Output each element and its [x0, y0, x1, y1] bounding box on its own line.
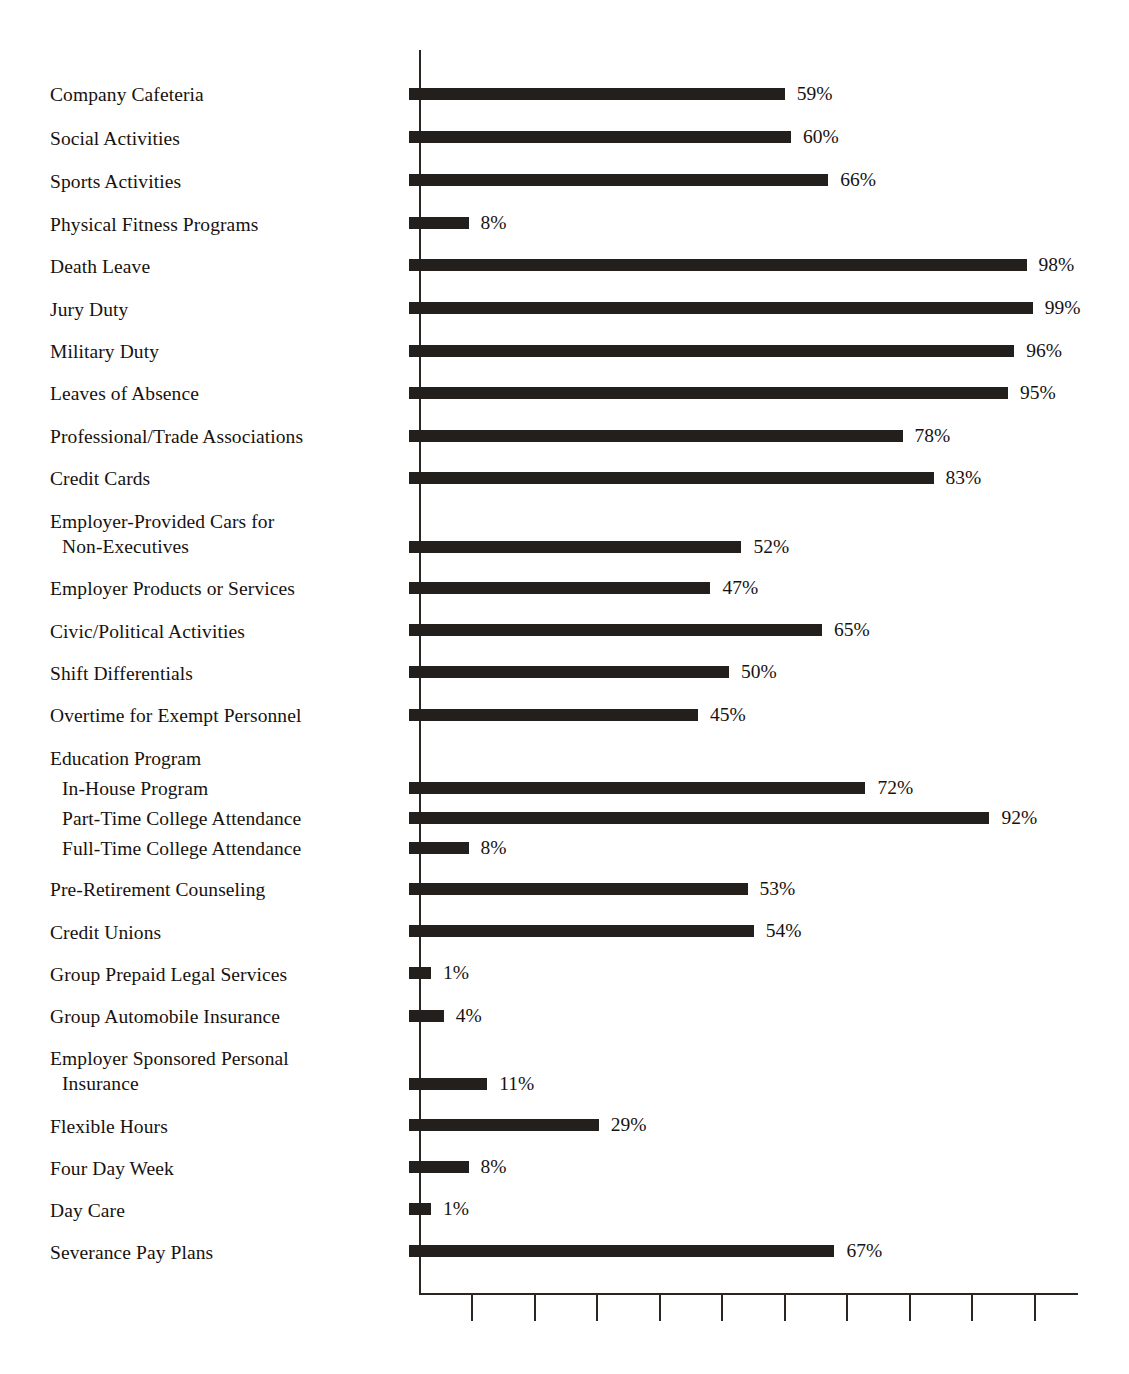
bar: [409, 345, 1014, 357]
bar-row-label: Employer Products or Services: [50, 576, 295, 601]
bar-value-label: 11%: [499, 1074, 534, 1094]
bar-row-label: In-House Program: [62, 776, 208, 801]
bar-row-label: Part-Time College Attendance: [62, 806, 301, 831]
bar: [409, 174, 828, 186]
bar-value-label: 98%: [1039, 255, 1075, 275]
bar-row-label: Flexible Hours: [50, 1114, 168, 1139]
bar-value-label: 95%: [1020, 383, 1056, 403]
bar-value-label: 96%: [1026, 341, 1062, 361]
bar-row-label: Military Duty: [50, 339, 159, 364]
x-axis-tick: [1034, 1295, 1036, 1321]
bar-row-label: Group Automobile Insurance: [50, 1004, 280, 1029]
bar: [409, 582, 710, 594]
bar: [409, 131, 791, 143]
bar-row-label: Day Care: [50, 1198, 125, 1223]
bar-value-label: 78%: [915, 426, 951, 446]
x-axis-tick: [909, 1295, 911, 1321]
x-axis-tick: [471, 1295, 473, 1321]
bar: [409, 624, 822, 636]
bar-value-label: 65%: [834, 620, 870, 640]
x-axis-tick: [721, 1295, 723, 1321]
bar: [409, 782, 865, 794]
bar-value-label: 53%: [760, 879, 796, 899]
bar-value-label: 54%: [766, 921, 802, 941]
bar-row-label: Full-Time College Attendance: [62, 836, 301, 861]
bar: [409, 883, 748, 895]
bar-row-label: Employer-Provided Cars for: [50, 509, 274, 534]
category-group-header: Education Program: [50, 746, 201, 771]
x-axis-tick: [534, 1295, 536, 1321]
x-axis-tick: [971, 1295, 973, 1321]
bar-row-label: Physical Fitness Programs: [50, 212, 258, 237]
bar-value-label: 99%: [1045, 298, 1081, 318]
bar: [409, 1203, 431, 1215]
bar-value-label: 92%: [1001, 808, 1037, 828]
bar: [409, 666, 729, 678]
bar-value-label: 45%: [710, 705, 746, 725]
bar: [409, 842, 469, 854]
bar: [409, 1245, 834, 1257]
bar-row-label: Shift Differentials: [50, 661, 193, 686]
bar: [409, 1010, 444, 1022]
bar-row-label: Non-Executives: [62, 534, 189, 559]
bar-value-label: 29%: [611, 1115, 647, 1135]
bar: [409, 541, 741, 553]
bar: [409, 1119, 599, 1131]
bar: [409, 1078, 487, 1090]
bar: [409, 88, 785, 100]
bar-row-label: Four Day Week: [50, 1156, 174, 1181]
bar-row-label: Civic/Political Activities: [50, 619, 245, 644]
bar-row-label: Pre-Retirement Counseling: [50, 877, 265, 902]
bar-value-label: 1%: [443, 1199, 469, 1219]
bar: [409, 709, 698, 721]
bar-row-label: Professional/Trade Associations: [50, 424, 303, 449]
bar-value-label: 83%: [946, 468, 982, 488]
bar-value-label: 60%: [803, 127, 839, 147]
bar-value-label: 59%: [797, 84, 833, 104]
bar-value-label: 4%: [456, 1006, 482, 1026]
bar: [409, 387, 1008, 399]
bar-row-label: Credit Cards: [50, 466, 150, 491]
bar-row-label: Overtime for Exempt Personnel: [50, 703, 301, 728]
bar-row-label: Severance Pay Plans: [50, 1240, 213, 1265]
bar: [409, 1161, 469, 1173]
bar: [409, 472, 934, 484]
bar-row-label: Jury Duty: [50, 297, 128, 322]
bar: [409, 967, 431, 979]
bar: [409, 925, 754, 937]
bar-row-label: Leaves of Absence: [50, 381, 199, 406]
bar-row-label: Social Activities: [50, 126, 180, 151]
bar-row-label: Employer Sponsored Personal: [50, 1046, 289, 1071]
bar: [409, 302, 1033, 314]
bar-row-label: Group Prepaid Legal Services: [50, 962, 287, 987]
x-axis-tick: [784, 1295, 786, 1321]
x-axis-tick: [659, 1295, 661, 1321]
x-axis-tick: [596, 1295, 598, 1321]
bar-row-label: Sports Activities: [50, 169, 181, 194]
bar: [409, 217, 469, 229]
bar-value-label: 67%: [846, 1241, 882, 1261]
x-axis-tick: [846, 1295, 848, 1321]
bar-value-label: 50%: [741, 662, 777, 682]
bar: [409, 259, 1027, 271]
bar-value-label: 66%: [840, 170, 876, 190]
bar-row-label: Company Cafeteria: [50, 82, 204, 107]
bar-row-label: Credit Unions: [50, 920, 161, 945]
bar-value-label: 72%: [877, 778, 913, 798]
bar-value-label: 47%: [722, 578, 758, 598]
x-axis-line: [419, 1293, 1078, 1295]
bar: [409, 812, 989, 824]
bar: [409, 430, 903, 442]
bar-value-label: 1%: [443, 963, 469, 983]
bar-value-label: 8%: [481, 213, 507, 233]
bar-row-label: Death Leave: [50, 254, 150, 279]
bar-value-label: 8%: [481, 838, 507, 858]
bar-value-label: 8%: [481, 1157, 507, 1177]
bar-row-label: Insurance: [62, 1071, 139, 1096]
bar-chart: Education Program Company Cafeteria59%So…: [0, 0, 1129, 1374]
bar-value-label: 52%: [753, 537, 789, 557]
